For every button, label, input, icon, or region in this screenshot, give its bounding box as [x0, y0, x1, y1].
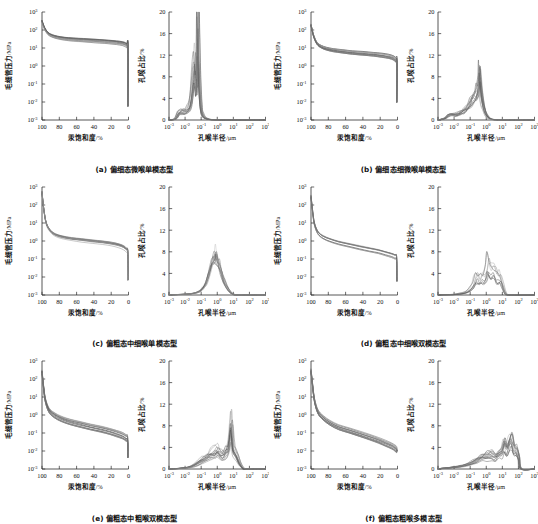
svg-text:10-1: 10-1: [196, 297, 206, 305]
svg-text:40: 40: [91, 123, 97, 130]
svg-text:12: 12: [159, 226, 165, 233]
svg-text:102: 102: [245, 472, 254, 480]
panel-c-caption: (c) 偏粗态中细喉单模态型: [0, 338, 269, 348]
svg-text:102: 102: [245, 297, 254, 305]
svg-text:10-2: 10-2: [449, 297, 459, 305]
svg-text:80: 80: [56, 472, 62, 479]
panel-b: 10310210110010-110-210-3100806040200汞饱和度…: [269, 0, 538, 175]
svg-text:8: 8: [162, 422, 165, 429]
svg-text:102: 102: [29, 375, 38, 383]
svg-text:100: 100: [213, 472, 222, 480]
svg-text:10-2: 10-2: [180, 297, 190, 305]
svg-text:16: 16: [159, 204, 165, 211]
svg-text:孔喉占比/%: 孔喉占比/%: [406, 223, 415, 258]
svg-text:20: 20: [377, 472, 383, 479]
svg-text:60: 60: [342, 123, 348, 130]
svg-text:10-2: 10-2: [297, 98, 307, 106]
svg-text:毛细管压力/MPa: 毛细管压力/MPa: [273, 391, 282, 440]
svg-text:60: 60: [342, 472, 348, 479]
svg-text:10-3: 10-3: [433, 472, 444, 480]
svg-text:0: 0: [127, 472, 130, 479]
svg-text:10-3: 10-3: [433, 297, 444, 305]
svg-text:汞饱和度/%: 汞饱和度/%: [67, 308, 103, 317]
svg-text:20: 20: [428, 183, 434, 190]
svg-text:100: 100: [482, 472, 491, 480]
svg-text:101: 101: [229, 122, 238, 130]
svg-text:40: 40: [360, 472, 366, 479]
svg-text:8: 8: [431, 73, 434, 80]
svg-text:孔喉占比/%: 孔喉占比/%: [137, 398, 146, 433]
svg-text:毛细管压力/MPa: 毛细管压力/MPa: [273, 42, 282, 91]
svg-text:10-1: 10-1: [28, 254, 38, 262]
svg-text:80: 80: [325, 472, 331, 479]
svg-text:20: 20: [377, 298, 383, 305]
svg-text:20: 20: [428, 357, 434, 364]
svg-text:101: 101: [498, 297, 507, 305]
panel-a-pore-throat-distribution-chart: 20161284010-310-210-1100101102103孔喉半径/μm…: [135, 0, 270, 156]
svg-text:20: 20: [377, 123, 383, 130]
panel-c-plots: 10310210110010-110-210-3100806040200汞饱和度…: [0, 175, 269, 331]
svg-text:100: 100: [482, 122, 491, 130]
svg-text:汞饱和度/%: 汞饱和度/%: [67, 133, 103, 142]
svg-text:8: 8: [431, 248, 434, 255]
svg-text:10-2: 10-2: [28, 447, 38, 455]
svg-text:0: 0: [396, 123, 399, 130]
svg-text:80: 80: [325, 298, 331, 305]
svg-text:102: 102: [514, 122, 523, 130]
svg-text:101: 101: [29, 218, 38, 226]
svg-text:100: 100: [298, 236, 307, 244]
svg-text:100: 100: [306, 123, 315, 130]
svg-text:10-3: 10-3: [433, 122, 444, 130]
svg-text:8: 8: [162, 73, 165, 80]
svg-text:孔喉半径/μm: 孔喉半径/μm: [467, 133, 505, 142]
svg-text:102: 102: [29, 200, 38, 208]
svg-text:10-1: 10-1: [196, 122, 206, 130]
svg-text:16: 16: [428, 379, 434, 386]
svg-text:汞饱和度/%: 汞饱和度/%: [336, 133, 372, 142]
svg-text:汞饱和度/%: 汞饱和度/%: [67, 482, 103, 491]
figure-root: 10310210110010-110-210-3100806040200汞饱和度…: [0, 0, 538, 524]
svg-text:4: 4: [162, 444, 166, 451]
svg-text:10-1: 10-1: [297, 429, 307, 437]
svg-text:100: 100: [298, 411, 307, 419]
panel-f-caption: (f) 偏粗态粗喉多模态型: [269, 513, 538, 523]
svg-text:0: 0: [127, 298, 130, 305]
svg-text:20: 20: [159, 183, 165, 190]
svg-text:16: 16: [428, 30, 434, 37]
svg-text:孔喉半径/μm: 孔喉半径/μm: [198, 133, 236, 142]
panel-f: 10310210110010-110-210-3100806040200汞饱和度…: [269, 349, 538, 524]
svg-text:100: 100: [306, 472, 315, 479]
svg-text:102: 102: [298, 26, 307, 34]
svg-text:103: 103: [298, 182, 307, 190]
svg-text:100: 100: [29, 236, 38, 244]
panel-f-plots: 10310210110010-110-210-3100806040200汞饱和度…: [269, 349, 538, 505]
svg-text:60: 60: [342, 298, 348, 305]
panel-b-capillary-pressure-chart: 10310210110010-110-210-3100806040200汞饱和度…: [269, 0, 404, 156]
panel-d: 10310210110010-110-210-3100806040200汞饱和度…: [269, 175, 538, 350]
svg-text:4: 4: [162, 269, 166, 276]
svg-text:100: 100: [213, 122, 222, 130]
svg-text:孔喉占比/%: 孔喉占比/%: [137, 49, 146, 84]
svg-text:103: 103: [29, 357, 38, 365]
panel-b-pore-throat-distribution-chart: 20161284010-310-210-1100101102103孔喉半径/μm…: [404, 0, 538, 156]
svg-text:10-3: 10-3: [164, 122, 175, 130]
svg-text:101: 101: [298, 218, 307, 226]
svg-text:10-1: 10-1: [297, 80, 307, 88]
svg-text:10-2: 10-2: [28, 272, 38, 280]
svg-text:20: 20: [159, 357, 165, 364]
svg-text:孔喉半径/μm: 孔喉半径/μm: [198, 308, 236, 317]
svg-text:20: 20: [108, 123, 114, 130]
svg-text:80: 80: [56, 123, 62, 130]
svg-text:100: 100: [37, 472, 46, 479]
svg-text:10-3: 10-3: [164, 472, 175, 480]
svg-text:4: 4: [431, 269, 435, 276]
svg-text:101: 101: [298, 393, 307, 401]
svg-text:孔喉半径/μm: 孔喉半径/μm: [198, 482, 236, 491]
svg-text:101: 101: [29, 44, 38, 52]
svg-text:40: 40: [91, 298, 97, 305]
svg-text:103: 103: [261, 122, 269, 130]
svg-text:10-1: 10-1: [297, 254, 307, 262]
svg-text:12: 12: [428, 52, 434, 59]
svg-text:4: 4: [162, 95, 166, 102]
panel-row: 10310210110010-110-210-3100806040200汞饱和度…: [0, 0, 538, 175]
